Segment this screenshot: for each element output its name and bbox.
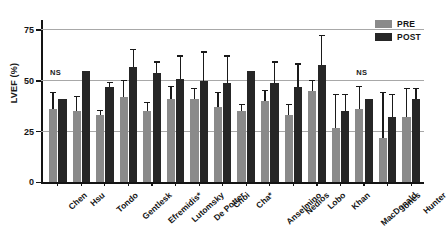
bar-pre [402, 117, 410, 182]
bar-post [318, 65, 326, 183]
error-bar-cap [272, 61, 278, 62]
y-tick-label-0: 0 [29, 177, 34, 187]
y-axis-label: LVEF (%) [9, 43, 19, 123]
x-label-efremidis: Efremidis* [166, 190, 204, 226]
error-bar-stem [392, 95, 393, 117]
x-label-chen: Chen [66, 190, 88, 212]
x-tick-mark [363, 182, 364, 186]
error-bar-stem [52, 93, 53, 109]
bar-group [96, 20, 114, 182]
x-label-cha: Cha* [254, 190, 275, 210]
error-bar-stem [274, 63, 275, 83]
x-tick-mark [151, 182, 152, 186]
bar-pre [190, 99, 198, 182]
error-bar-cap [97, 110, 103, 111]
error-bar-stem [194, 89, 195, 99]
error-bar-cap [168, 86, 174, 87]
bar-post [105, 87, 113, 182]
legend: PRE POST [375, 19, 421, 42]
bar-pre [96, 115, 104, 182]
y-tick-label-25: 25 [24, 127, 34, 137]
bar-pre [379, 138, 387, 183]
error-bar-cap [154, 61, 160, 62]
error-bar-cap [286, 104, 292, 105]
error-bar-stem [109, 83, 110, 87]
bar-post [58, 99, 66, 182]
bar-pre [308, 91, 316, 182]
bar-post [82, 71, 90, 183]
error-bar-stem [156, 63, 157, 73]
error-bar-stem [345, 95, 346, 111]
error-bar-cap [356, 86, 362, 87]
y-tick-label-75: 75 [24, 25, 34, 35]
bar-post [223, 83, 231, 182]
bar-pre [285, 115, 293, 182]
error-bar-cap [262, 90, 268, 91]
x-label-tondo: Tondo [114, 190, 140, 214]
error-bar-cap [389, 94, 395, 95]
error-bar-cap [107, 82, 113, 83]
plot-area: 0255075 NSNS [41, 20, 424, 184]
bar-group [190, 20, 208, 182]
bar-pre [73, 111, 81, 182]
error-bar-stem [76, 97, 77, 111]
error-bar-stem [147, 103, 148, 111]
bar-group [379, 20, 397, 182]
bar-pre [167, 99, 175, 182]
x-tick-mark [293, 182, 294, 186]
error-bar-stem [123, 81, 124, 97]
bar-group [49, 20, 67, 182]
error-bar-stem [241, 105, 242, 111]
error-bar-stem [297, 65, 298, 87]
x-label-macdonald: MacDonald [379, 190, 419, 228]
bar-pre [332, 128, 340, 183]
error-bar-stem [288, 105, 289, 115]
error-bar-stem [133, 50, 134, 66]
error-bar-cap [333, 94, 339, 95]
x-label-hunter: Hunter [421, 190, 448, 216]
error-bar-cap [201, 51, 207, 52]
x-label-depotter: De Potter [212, 190, 247, 223]
x-tick-mark [387, 182, 388, 186]
x-tick-mark [340, 182, 341, 186]
error-bar-cap [380, 92, 386, 93]
bar-pre [214, 107, 222, 182]
error-bar-stem [382, 93, 383, 138]
legend-item-post: POST [375, 32, 421, 42]
x-tick-mark [57, 182, 58, 186]
legend-label-pre: PRE [397, 19, 415, 29]
bar-post [153, 73, 161, 183]
bar-group [143, 20, 161, 182]
x-tick-mark [269, 182, 270, 186]
x-axis-line [41, 182, 424, 184]
bar-post [129, 67, 137, 183]
bar-post [341, 111, 349, 182]
y-tick-mark [36, 131, 41, 132]
legend-label-post: POST [397, 32, 421, 42]
y-tick-mark [36, 80, 41, 81]
x-label-hsu: Hsu [88, 190, 107, 208]
x-tick-mark [411, 182, 412, 186]
error-bar-cap [224, 55, 230, 56]
bar-pre [49, 109, 57, 182]
error-bar-cap [319, 35, 325, 36]
bar-group [214, 20, 232, 182]
x-label-gentlesk: Gentlesk [141, 190, 174, 221]
legend-item-pre: PRE [375, 19, 421, 29]
x-label-anselmino: Anselmino [284, 190, 323, 227]
error-bar-stem [359, 87, 360, 109]
error-bar-cap [177, 55, 183, 56]
error-bar-stem [415, 89, 416, 99]
y-tick-mark [36, 182, 41, 183]
bar-group [120, 20, 138, 182]
error-bar-cap [413, 88, 419, 89]
error-bar-stem [264, 91, 265, 101]
error-bar-cap [191, 88, 197, 89]
bar-post [365, 99, 373, 182]
bar-group [237, 20, 255, 182]
bar-group [332, 20, 350, 182]
legend-swatch-post [375, 33, 392, 41]
x-tick-mark [128, 182, 129, 186]
error-bar-stem [170, 87, 171, 99]
bar-group [261, 20, 279, 182]
